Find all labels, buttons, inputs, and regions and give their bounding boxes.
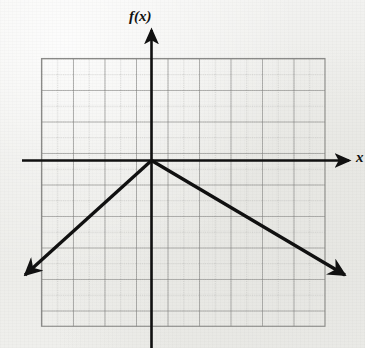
figure-canvas: f(x) x [0, 0, 365, 348]
x-axis-label: x [356, 149, 364, 166]
y-axis-label: f(x) [129, 8, 152, 25]
grid-region [42, 59, 326, 327]
coordinate-plane [0, 0, 365, 348]
